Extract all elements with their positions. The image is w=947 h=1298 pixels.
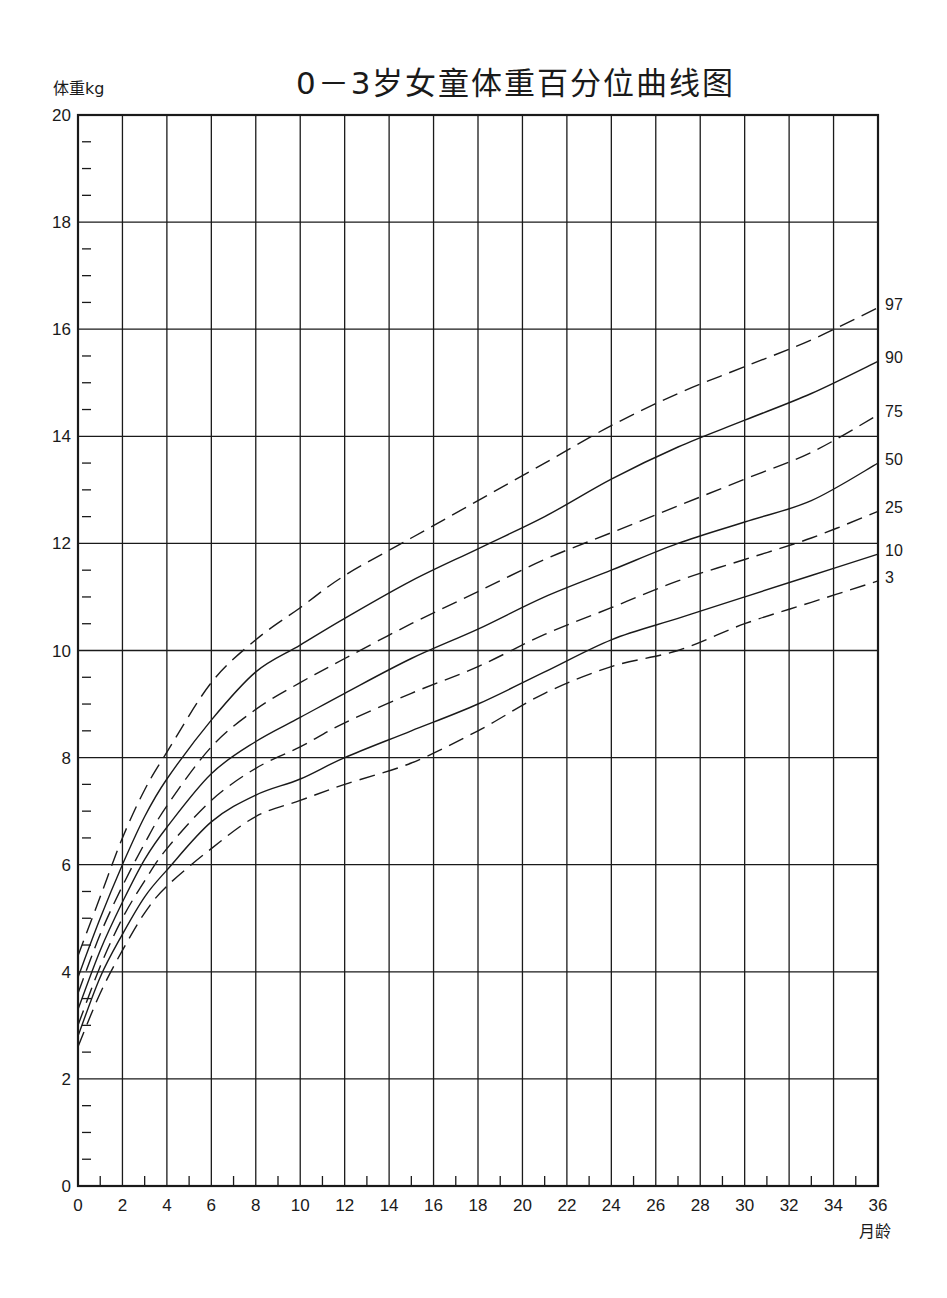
x-tick-label: 24 — [602, 1196, 621, 1215]
x-tick-label: 8 — [251, 1196, 260, 1215]
y-tick-label: 16 — [52, 320, 71, 339]
x-tick-label: 4 — [162, 1196, 171, 1215]
y-tick-label: 2 — [62, 1070, 71, 1089]
y-tick-label: 0 — [62, 1177, 71, 1196]
x-tick-label: 16 — [424, 1196, 443, 1215]
percentile-label-p90: 90 — [885, 349, 903, 366]
y-tick-label: 8 — [62, 749, 71, 768]
percentile-label-p50: 50 — [885, 451, 903, 468]
x-tick-label: 30 — [735, 1196, 754, 1215]
percentile-label-p97: 97 — [885, 296, 903, 313]
percentile-chart: 0246810121416182002468101214161820222426… — [0, 0, 947, 1298]
percentile-label-p75: 75 — [885, 403, 903, 420]
y-tick-label: 12 — [52, 534, 71, 553]
y-tick-label: 10 — [52, 642, 71, 661]
x-tick-label: 18 — [469, 1196, 488, 1215]
percentile-label-p10: 10 — [885, 542, 903, 559]
y-tick-label: 14 — [52, 427, 71, 446]
x-tick-label: 26 — [646, 1196, 665, 1215]
x-tick-label: 6 — [207, 1196, 216, 1215]
x-tick-label: 36 — [869, 1196, 888, 1215]
x-tick-label: 32 — [780, 1196, 799, 1215]
x-tick-label: 0 — [73, 1196, 82, 1215]
y-tick-label: 6 — [62, 856, 71, 875]
x-tick-label: 2 — [118, 1196, 127, 1215]
y-tick-label: 4 — [62, 963, 71, 982]
x-tick-label: 10 — [291, 1196, 310, 1215]
x-tick-label: 28 — [691, 1196, 710, 1215]
y-tick-label: 18 — [52, 213, 71, 232]
x-tick-label: 22 — [557, 1196, 576, 1215]
percentile-label-p3: 3 — [885, 569, 894, 586]
percentile-label-p25: 25 — [885, 499, 903, 516]
x-tick-label: 12 — [335, 1196, 354, 1215]
y-tick-label: 20 — [52, 106, 71, 125]
x-tick-label: 34 — [824, 1196, 843, 1215]
x-tick-label: 14 — [380, 1196, 399, 1215]
x-tick-label: 20 — [513, 1196, 532, 1215]
